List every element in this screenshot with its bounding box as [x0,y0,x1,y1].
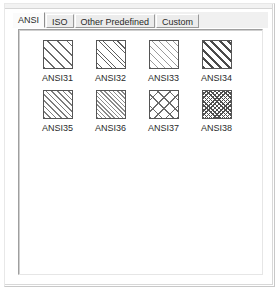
pattern-label: ANSI38 [201,123,232,133]
pattern-label: ANSI35 [42,123,73,133]
pattern-item[interactable]: ANSI32 [84,40,137,90]
pattern-item[interactable]: ANSI31 [31,40,84,90]
tab-other-predefined[interactable]: Other Predefined [75,14,156,28]
hatch-swatch-ansi38-icon[interactable] [202,90,232,119]
pattern-item[interactable]: ANSI37 [137,90,190,140]
pattern-item[interactable]: ANSI33 [137,40,190,90]
tab-ansi[interactable]: ANSI [12,12,45,28]
hatch-swatch-ansi31-icon[interactable] [43,40,73,69]
hatch-swatch-ansi36-icon[interactable] [96,90,126,119]
pattern-item[interactable]: ANSI38 [190,90,243,140]
pattern-label: ANSI32 [95,73,126,83]
pattern-label: ANSI37 [148,123,179,133]
hatch-swatch-ansi32-icon[interactable] [96,40,126,69]
pattern-label: ANSI34 [201,73,232,83]
tab-list: ANSIISOOther PredefinedCustom [12,12,200,28]
pattern-item[interactable]: ANSI36 [84,90,137,140]
tab-strip: ANSIISOOther PredefinedCustom [12,12,268,28]
pattern-label: ANSI31 [42,73,73,83]
pattern-list-panel-inner: ANSI31ANSI32ANSI33ANSI34ANSI35ANSI36ANSI… [19,30,262,274]
dialog-top-strip [5,4,272,9]
pattern-list-panel[interactable]: ANSI31ANSI32ANSI33ANSI34ANSI35ANSI36ANSI… [18,29,263,275]
dialog-inner-frame: ANSIISOOther PredefinedCustom ANSI31ANSI… [5,4,273,285]
hatch-swatch-ansi33-icon[interactable] [149,40,179,69]
pattern-label: ANSI33 [148,73,179,83]
hatch-swatch-ansi37-icon[interactable] [149,90,179,119]
tab-iso[interactable]: ISO [46,14,74,28]
pattern-item[interactable]: ANSI34 [190,40,243,90]
pattern-grid: ANSI31ANSI32ANSI33ANSI34ANSI35ANSI36ANSI… [31,40,255,140]
pattern-item[interactable]: ANSI35 [31,90,84,140]
hatch-swatch-ansi34-icon[interactable] [202,40,232,69]
hatch-pattern-palette-dialog: ANSIISOOther PredefinedCustom ANSI31ANSI… [4,3,275,287]
hatch-swatch-ansi35-icon[interactable] [43,90,73,119]
pattern-label: ANSI36 [95,123,126,133]
tab-custom[interactable]: Custom [156,14,199,28]
